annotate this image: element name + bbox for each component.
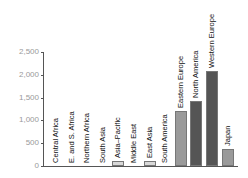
- y-tick-label: 1,000: [5, 116, 39, 124]
- category-label: Asia–Pacific: [114, 118, 122, 159]
- category-label: Eastern Europe: [177, 56, 185, 108]
- y-tick-label: 500: [5, 139, 39, 147]
- bar: [222, 149, 234, 166]
- y-tick-mark: [41, 166, 44, 167]
- y-tick-mark: [41, 143, 44, 144]
- category-label: Western Europe: [208, 14, 216, 68]
- y-tick-mark: [41, 52, 44, 53]
- category-label: Japan: [224, 126, 232, 146]
- category-label: North America: [192, 50, 200, 98]
- category-label: Central Africa: [52, 118, 60, 163]
- y-tick-label: 0: [5, 162, 39, 170]
- y-tick-mark: [41, 75, 44, 76]
- category-label: East Asia: [146, 127, 154, 158]
- y-tick-label: 2,000: [5, 71, 39, 79]
- y-tick-mark: [41, 120, 44, 121]
- y-tick-label: 2,500: [5, 48, 39, 56]
- bar: [144, 161, 156, 166]
- category-label: South America: [161, 114, 169, 163]
- category-label: E. and S. Africa: [68, 111, 76, 163]
- x-axis: [43, 166, 238, 167]
- category-label: Middle East: [130, 124, 138, 163]
- bar: [206, 71, 218, 166]
- bar-chart: 05001,0001,5002,0002,500Central AfricaE.…: [0, 0, 248, 178]
- y-tick-label: 1,500: [5, 94, 39, 102]
- category-label: Northern Africa: [83, 113, 91, 163]
- category-label: South Asia: [99, 127, 107, 163]
- y-tick-mark: [41, 98, 44, 99]
- bar: [190, 101, 202, 166]
- y-axis: [43, 52, 44, 167]
- bar: [112, 161, 124, 166]
- bar: [175, 111, 187, 166]
